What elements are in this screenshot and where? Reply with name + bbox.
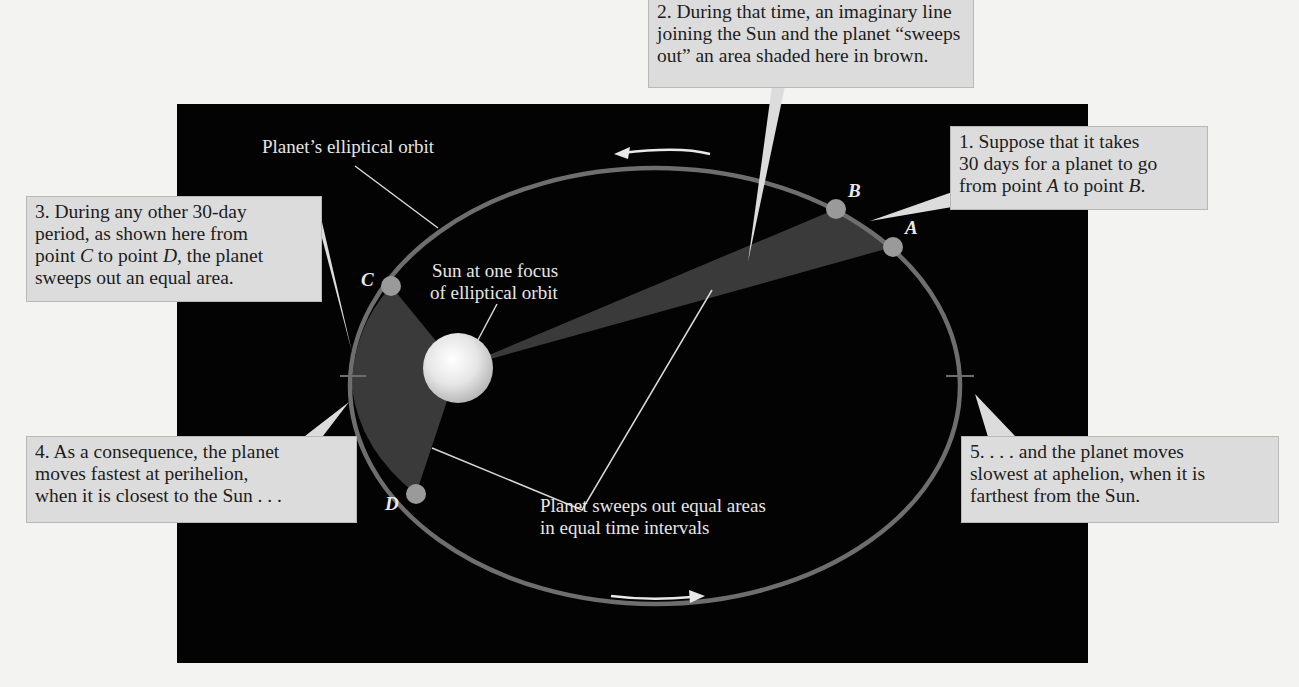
sweep-label-line-2: in equal time intervals bbox=[540, 517, 709, 539]
point-c-marker bbox=[381, 276, 401, 296]
callout-2-line-2: joining the Sun and the planet “sweeps bbox=[657, 23, 965, 45]
sun bbox=[423, 333, 493, 403]
callout-3-line-2: period, as shown here from bbox=[35, 223, 313, 245]
callout-2-line-1: 2. During that time, an imaginary line bbox=[657, 1, 965, 23]
callout-5-line-2: slowest at aphelion, when it is bbox=[970, 463, 1270, 485]
callout-3-pointer bbox=[322, 222, 352, 352]
callout-3-line-3: point C to point D, the planet bbox=[35, 245, 313, 267]
orbit-label: Planet’s elliptical orbit bbox=[262, 136, 434, 158]
point-b-marker bbox=[826, 199, 846, 219]
sun-label-line-2: of elliptical orbit bbox=[430, 282, 558, 304]
point-d-marker bbox=[406, 484, 426, 504]
point-b-label: B bbox=[848, 181, 861, 201]
callout-2: 2. During that time, an imaginary line j… bbox=[648, 0, 974, 88]
callout-1: 1. Suppose that it takes 30 days for a p… bbox=[950, 126, 1208, 210]
callout-3-line-4: sweeps out an equal area. bbox=[35, 267, 313, 289]
point-c-label: C bbox=[361, 270, 374, 290]
orbit-label-leader bbox=[355, 166, 438, 228]
point-a-label: A bbox=[905, 218, 918, 238]
callout-1-line-3: from point A to point B. bbox=[959, 175, 1199, 197]
point-a-marker bbox=[883, 237, 903, 257]
callout-1-line-2: 30 days for a planet to go bbox=[959, 153, 1199, 175]
callout-5-line-3: farthest from the Sun. bbox=[970, 485, 1270, 507]
callout-4: 4. As a consequence, the planet moves fa… bbox=[26, 436, 357, 523]
direction-arrow-top bbox=[614, 147, 710, 159]
callout-1-line-1: 1. Suppose that it takes bbox=[959, 131, 1199, 153]
callout-5: 5. . . . and the planet moves slowest at… bbox=[961, 436, 1279, 523]
callout-5-pointer bbox=[975, 394, 1016, 437]
callout-4-pointer bbox=[305, 402, 349, 436]
callout-5-line-1: 5. . . . and the planet moves bbox=[970, 441, 1270, 463]
callout-4-line-3: when it is closest to the Sun . . . bbox=[35, 485, 348, 507]
sweep-label-line-1: Planet sweeps out equal areas bbox=[540, 495, 766, 517]
callout-2-line-3: out” an area shaded here in brown. bbox=[657, 45, 965, 67]
callout-3-line-1: 3. During any other 30-day bbox=[35, 201, 313, 223]
sun-label-line-1: Sun at one focus bbox=[432, 260, 558, 282]
callout-4-line-1: 4. As a consequence, the planet bbox=[35, 441, 348, 463]
orbit-diagram bbox=[0, 0, 1299, 687]
callout-3: 3. During any other 30-day period, as sh… bbox=[26, 196, 322, 302]
callout-4-line-2: moves fastest at perihelion, bbox=[35, 463, 348, 485]
point-d-label: D bbox=[385, 494, 399, 514]
